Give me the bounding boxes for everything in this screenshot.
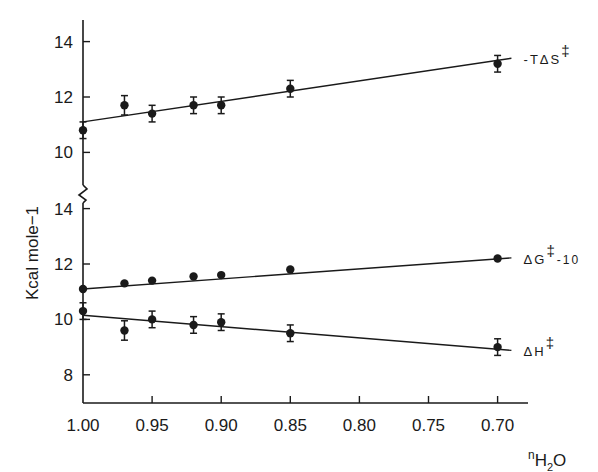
- data-point: [148, 315, 156, 323]
- data-point: [493, 254, 501, 262]
- series-0: [79, 55, 512, 138]
- series-label: ΔG‡-10: [524, 242, 580, 267]
- x-tick-label: 0.75: [412, 416, 445, 435]
- fit-line: [83, 315, 511, 350]
- y-tick-label: 14: [54, 200, 73, 219]
- x-tick-label: 0.80: [343, 416, 376, 435]
- data-point: [217, 101, 225, 109]
- fit-line: [83, 258, 511, 289]
- series-2: [79, 303, 512, 356]
- data-point: [148, 109, 156, 117]
- data-point: [120, 326, 128, 334]
- data-point: [148, 276, 156, 284]
- data-point: [286, 329, 294, 337]
- y-tick-label: 8: [64, 366, 73, 385]
- y-tick-label: 12: [54, 255, 73, 274]
- axes: 10121481012141.000.950.900.850.800.750.7…: [23, 20, 566, 472]
- y-axis-label: Kcal mole−1: [23, 206, 42, 300]
- x-tick-label: 0.90: [205, 416, 238, 435]
- labels-layer: -TΔS‡ΔG‡-10ΔH‡: [524, 42, 580, 359]
- y-tick-label: 10: [54, 310, 73, 329]
- data-point: [120, 279, 128, 287]
- data-point: [286, 84, 294, 92]
- series-layer: [79, 55, 512, 355]
- data-point: [189, 272, 197, 280]
- y-tick-label: 12: [54, 88, 73, 107]
- series-1: [79, 254, 512, 293]
- data-point: [189, 101, 197, 109]
- x-tick-label: 0.95: [136, 416, 169, 435]
- x-tick-label: 0.85: [274, 416, 307, 435]
- data-point: [79, 285, 87, 293]
- data-point: [217, 318, 225, 326]
- series-label: ΔH‡: [524, 334, 556, 359]
- fit-line: [83, 58, 511, 122]
- data-point: [493, 60, 501, 68]
- x-axis-label: nH2O: [528, 448, 566, 472]
- x-tick-label: 0.70: [481, 416, 514, 435]
- data-point: [493, 343, 501, 351]
- chart: 10121481012141.000.950.900.850.800.750.7…: [0, 0, 598, 472]
- series-label: -TΔS‡: [524, 42, 572, 67]
- x-tick-label: 1.00: [66, 416, 99, 435]
- y-tick-label: 10: [54, 143, 73, 162]
- data-point: [189, 321, 197, 329]
- data-point: [79, 126, 87, 134]
- data-point: [286, 265, 294, 273]
- data-point: [120, 101, 128, 109]
- data-point: [217, 271, 225, 279]
- y-tick-label: 14: [54, 33, 73, 52]
- data-point: [79, 307, 87, 315]
